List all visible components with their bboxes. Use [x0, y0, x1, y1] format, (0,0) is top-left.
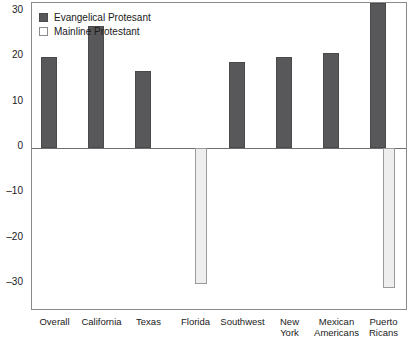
bar — [135, 71, 151, 148]
y-tick-label: –10 — [6, 185, 23, 196]
bar — [276, 57, 292, 148]
legend-entry: Evangelical Protesant — [39, 12, 151, 23]
y-tick-label: –20 — [6, 231, 23, 242]
bar-chart: 3020100–10–20–30 OverallCaliforniaTexasF… — [0, 0, 413, 347]
bars-layer — [32, 3, 406, 309]
x-axis: OverallCaliforniaTexasFloridaSouthwestNe… — [31, 316, 407, 347]
y-axis: 3020100–10–20–30 — [0, 0, 31, 347]
bar — [323, 53, 339, 148]
legend-label: Mainline Protestant — [54, 26, 140, 37]
x-axis-label: New York — [266, 316, 313, 338]
bar — [229, 62, 245, 148]
x-axis-label: Southwest — [219, 316, 266, 327]
legend-swatch-icon — [39, 13, 48, 22]
plot-area — [31, 2, 407, 310]
y-tick-label: 30 — [12, 4, 23, 15]
y-tick-label: 10 — [12, 95, 23, 106]
bar — [370, 3, 386, 148]
y-tick-label: 20 — [12, 49, 23, 60]
legend-swatch-icon — [39, 27, 48, 36]
y-tick-label: 0 — [17, 140, 23, 151]
bar — [383, 148, 395, 288]
x-axis-label: Florida — [172, 316, 219, 327]
bar — [88, 26, 104, 148]
bar — [195, 148, 207, 284]
y-tick-label: –30 — [6, 276, 23, 287]
legend-entry: Mainline Protestant — [39, 26, 151, 37]
x-axis-label: California — [78, 316, 125, 327]
x-axis-label: Puerto Ricans — [360, 316, 407, 338]
x-axis-label: Overall — [31, 316, 78, 327]
bar — [41, 57, 57, 148]
legend-label: Evangelical Protesant — [54, 12, 151, 23]
x-axis-label: Texas — [125, 316, 172, 327]
chart-legend: Evangelical ProtesantMainline Protestant — [39, 12, 151, 37]
x-axis-label: Mexican Americans — [313, 316, 360, 338]
